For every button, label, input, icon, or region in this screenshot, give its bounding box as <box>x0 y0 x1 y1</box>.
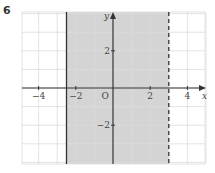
x-axis-label: x <box>202 91 207 101</box>
x-tick-label: −4 <box>32 91 46 101</box>
x-tick-label: 4 <box>185 91 191 101</box>
inequality-graph: −4−2242−2Oxy <box>0 0 215 173</box>
x-tick-label: 2 <box>147 91 153 101</box>
x-tick-label: −2 <box>69 91 82 101</box>
origin-label: O <box>102 91 109 101</box>
y-tick-label: 2 <box>104 46 110 56</box>
y-axis-label: y <box>103 11 110 21</box>
y-tick-label: −2 <box>97 120 110 130</box>
